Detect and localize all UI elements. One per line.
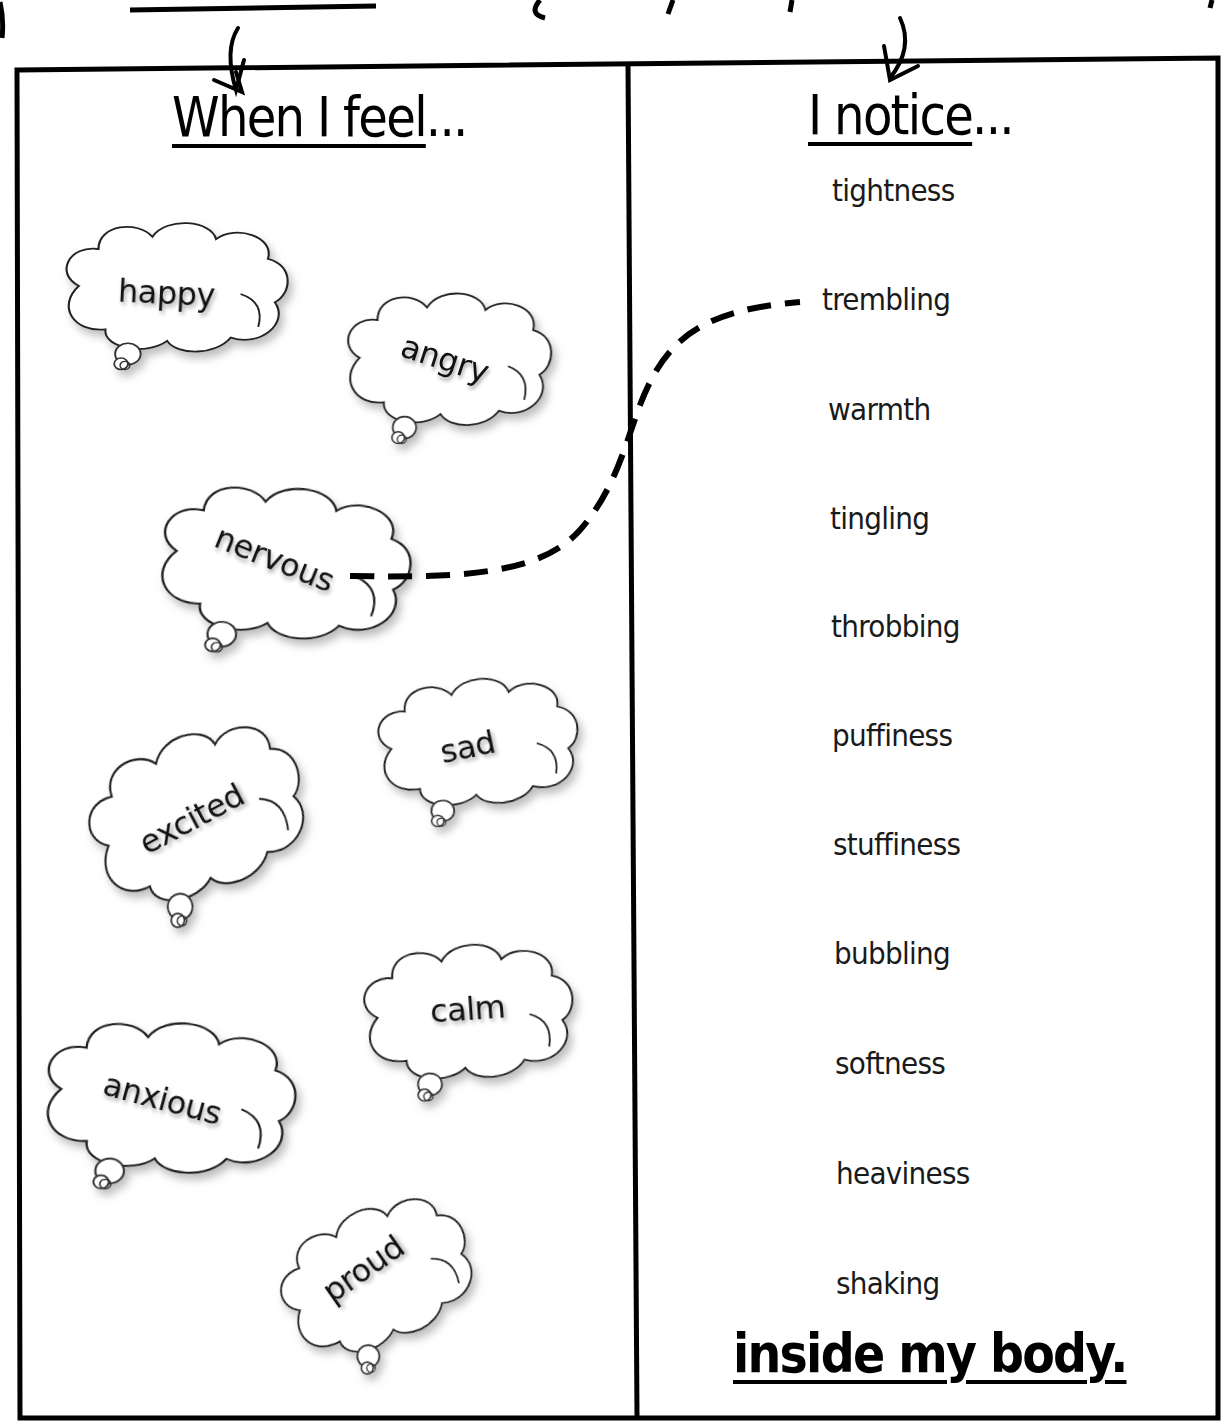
sensation-item: bubbling bbox=[834, 935, 950, 971]
cloud-proud bbox=[263, 1175, 501, 1394]
sensation-item: softness bbox=[835, 1045, 945, 1081]
sensation-item: shaking bbox=[836, 1265, 940, 1301]
footer-text: inside my body. bbox=[733, 1322, 1126, 1385]
feeling-happy: happy bbox=[117, 271, 216, 314]
sensation-item: throbbing bbox=[831, 608, 960, 644]
sensation-item: tingling bbox=[830, 500, 929, 536]
feeling-calm: calm bbox=[429, 987, 507, 1030]
sensation-item: tightness bbox=[832, 172, 954, 208]
sensation-item: warmth bbox=[828, 391, 930, 427]
sensation-item: stuffiness bbox=[833, 826, 960, 862]
sensation-item: heaviness bbox=[836, 1155, 970, 1191]
sensation-item: trembling bbox=[822, 281, 950, 317]
thought-clouds bbox=[0, 0, 1228, 1424]
sensation-item: puffiness bbox=[832, 717, 952, 753]
